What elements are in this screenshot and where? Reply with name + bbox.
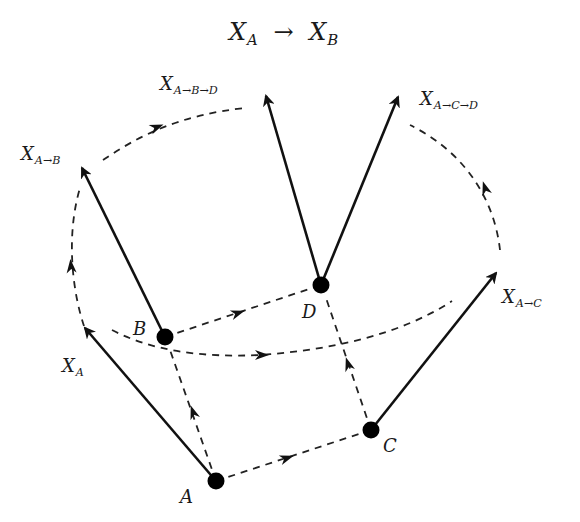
curve-xa-to-xab: [72, 188, 84, 326]
label-xacd-base: X: [420, 88, 433, 109]
arrowhead-b-d-icon: [230, 306, 246, 320]
dashed-arrowheads: [65, 120, 492, 465]
label-xabd-sub: A→B→D: [174, 84, 218, 97]
label-xac-base: X: [502, 286, 515, 307]
title-base-left: X: [229, 18, 246, 46]
vector-xab: [82, 168, 165, 337]
transport-edges: [165, 285, 371, 481]
title-base-right: X: [309, 18, 326, 46]
node-label-a: A: [180, 488, 193, 506]
arrowhead-left-curve-icon: [65, 259, 76, 274]
label-xacd-sub: A→C→D: [434, 99, 478, 112]
label-xa-sub: A: [76, 366, 84, 379]
edge-a-c: [216, 430, 371, 481]
title-sub-left: A: [247, 31, 258, 49]
title-sub-right: B: [327, 31, 338, 49]
node-d: [313, 277, 330, 294]
node-b: [157, 329, 174, 346]
label-xacd: XA→C→D: [420, 90, 478, 108]
label-xabd: XA→B→D: [160, 75, 218, 93]
arrowhead-a-c-icon: [279, 451, 295, 465]
label-xabd-base: X: [160, 73, 173, 94]
diagram-title: XA → XB: [229, 20, 338, 44]
label-xac-sub: A→C: [516, 297, 542, 310]
node-c: [363, 422, 380, 439]
vector-xac: [371, 273, 496, 430]
nodes: [157, 277, 380, 490]
node-label-d: D: [302, 303, 316, 321]
vector-xa: [85, 328, 216, 481]
node-label-b: B: [133, 320, 146, 338]
node-a: [208, 473, 225, 490]
vector-xacd: [321, 97, 398, 285]
node-label-c: C: [383, 437, 397, 455]
label-xa-base: X: [62, 355, 75, 376]
curve-xa-to-xac: [112, 301, 452, 356]
label-xab-sub: A→B: [35, 154, 61, 167]
arrowhead-c-d-icon: [341, 356, 355, 372]
label-xac: XA→C: [502, 288, 542, 306]
label-xab-base: X: [21, 143, 34, 164]
label-xa: XA: [62, 357, 84, 375]
title-arrow: →: [273, 18, 293, 46]
diagram-canvas: [0, 0, 580, 522]
vector-xabd: [266, 96, 321, 285]
vectors: [82, 96, 496, 481]
label-xab: XA→B: [21, 145, 60, 163]
curve-xab-to-xabd: [103, 108, 245, 160]
